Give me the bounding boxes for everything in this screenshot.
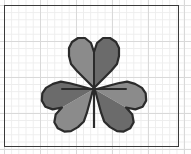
top-leaf-light-half [69, 38, 94, 88]
clover-svg [0, 0, 191, 154]
top-leaf-dark-half [94, 38, 119, 88]
clover-figure [0, 0, 191, 154]
screenshot-canvas [0, 0, 191, 154]
